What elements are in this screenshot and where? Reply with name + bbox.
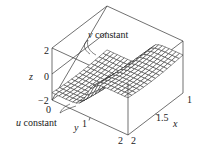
y-tick-0: 0 <box>46 105 51 115</box>
x-tick-1: 1 <box>187 95 192 105</box>
x-tick-2: 2 <box>131 136 136 146</box>
x-tick-1-5: 1.5 <box>156 113 169 123</box>
y-tick-2: 2 <box>118 136 123 146</box>
u-constant-label: u constant <box>16 118 57 128</box>
v-constant-label: v constant <box>88 30 128 40</box>
z-tick-2: 2 <box>44 46 49 56</box>
surface-mesh <box>52 45 183 103</box>
z-tick-0: 0 <box>44 72 49 82</box>
y-axis-label: y <box>74 123 78 133</box>
y-tick-1: 1 <box>82 119 87 129</box>
x-axis-label: x <box>173 119 177 129</box>
z-axis-label: z <box>29 72 33 82</box>
